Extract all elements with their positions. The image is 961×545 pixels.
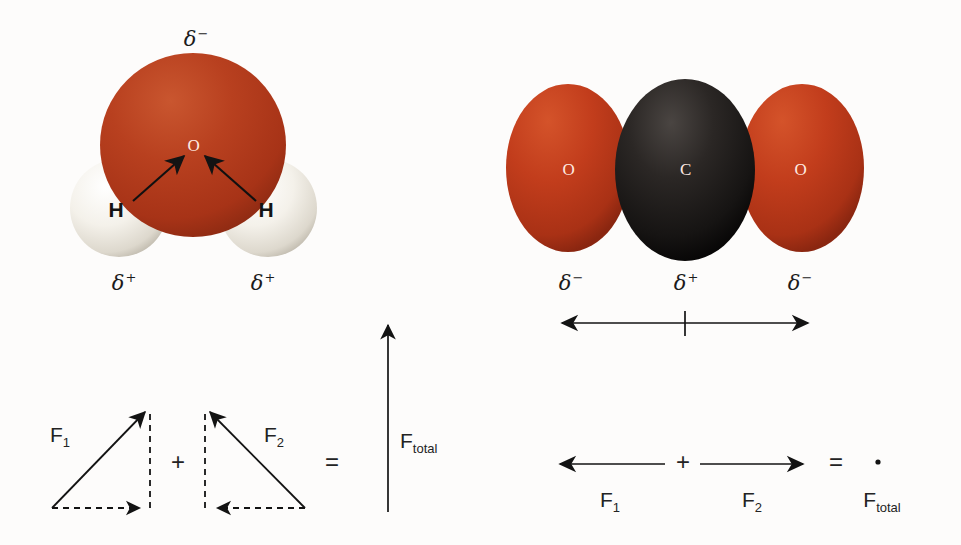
water-equals-operator: = bbox=[325, 450, 339, 474]
water-delta-positive-left-label: δ+ bbox=[112, 271, 137, 294]
water-f2-label: F2 bbox=[264, 424, 284, 449]
molecule-models-layer bbox=[0, 0, 961, 545]
water-f-total-label: Ftotal bbox=[400, 430, 437, 455]
co2-f-total-zero-dot bbox=[875, 459, 880, 464]
co2-delta-negative-right-label: δ− bbox=[788, 271, 813, 294]
water-oxygen-atom-label: O bbox=[188, 137, 201, 154]
water-hydrogen-right-atom-label: H bbox=[258, 199, 273, 220]
co2-oxygen-left-atom-label: O bbox=[563, 161, 576, 178]
water-delta-positive-right-label: δ+ bbox=[251, 271, 276, 294]
molecular-polarity-figure: δ− δ+ δ+ O H H O C O δ− δ+ δ− F1 + F2 = … bbox=[0, 0, 961, 545]
carbon-dioxide-molecule-model bbox=[506, 79, 864, 336]
water-hydrogen-left-atom-label: H bbox=[108, 199, 123, 220]
co2-delta-positive-label: δ+ bbox=[674, 271, 699, 294]
f2-resultant-vector bbox=[210, 412, 305, 508]
co2-f1-label: F1 bbox=[600, 489, 620, 514]
water-f1-label: F1 bbox=[50, 424, 70, 449]
co2-equals-operator: = bbox=[829, 450, 843, 474]
co2-f2-label: F2 bbox=[742, 489, 762, 514]
co2-oxygen-right-atom-label: O bbox=[795, 161, 808, 178]
co2-plus-operator: + bbox=[676, 450, 690, 474]
water-molecule-model bbox=[70, 53, 317, 257]
co2-f-total-label: Ftotal bbox=[863, 489, 900, 514]
water-plus-operator: + bbox=[171, 450, 185, 474]
co2-carbon-atom-label: C bbox=[680, 161, 692, 178]
water-vector-diagram bbox=[52, 325, 388, 512]
co2-delta-negative-left-label: δ− bbox=[559, 271, 584, 294]
water-delta-negative-label: δ− bbox=[184, 27, 209, 50]
